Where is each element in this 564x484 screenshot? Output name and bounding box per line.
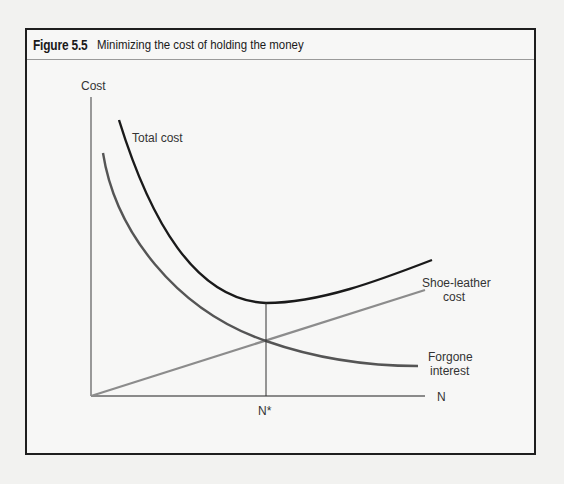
forgone-label-2: interest — [430, 364, 470, 378]
shoe-leather-label-2: cost — [443, 290, 466, 304]
y-axis-label: Cost — [81, 79, 106, 93]
shoe-leather-label-1: Shoe-leather — [422, 276, 491, 290]
forgone-label-1: Forgone — [428, 350, 473, 364]
x-axis-label: N — [437, 390, 446, 404]
shoe-leather-line — [91, 290, 425, 396]
forgone-interest-curve — [103, 153, 418, 366]
total-cost-label: Total cost — [132, 131, 183, 145]
chart: Cost N N* Total cost Shoe-leather cost F… — [0, 0, 564, 484]
n-star-label: N* — [258, 404, 272, 418]
